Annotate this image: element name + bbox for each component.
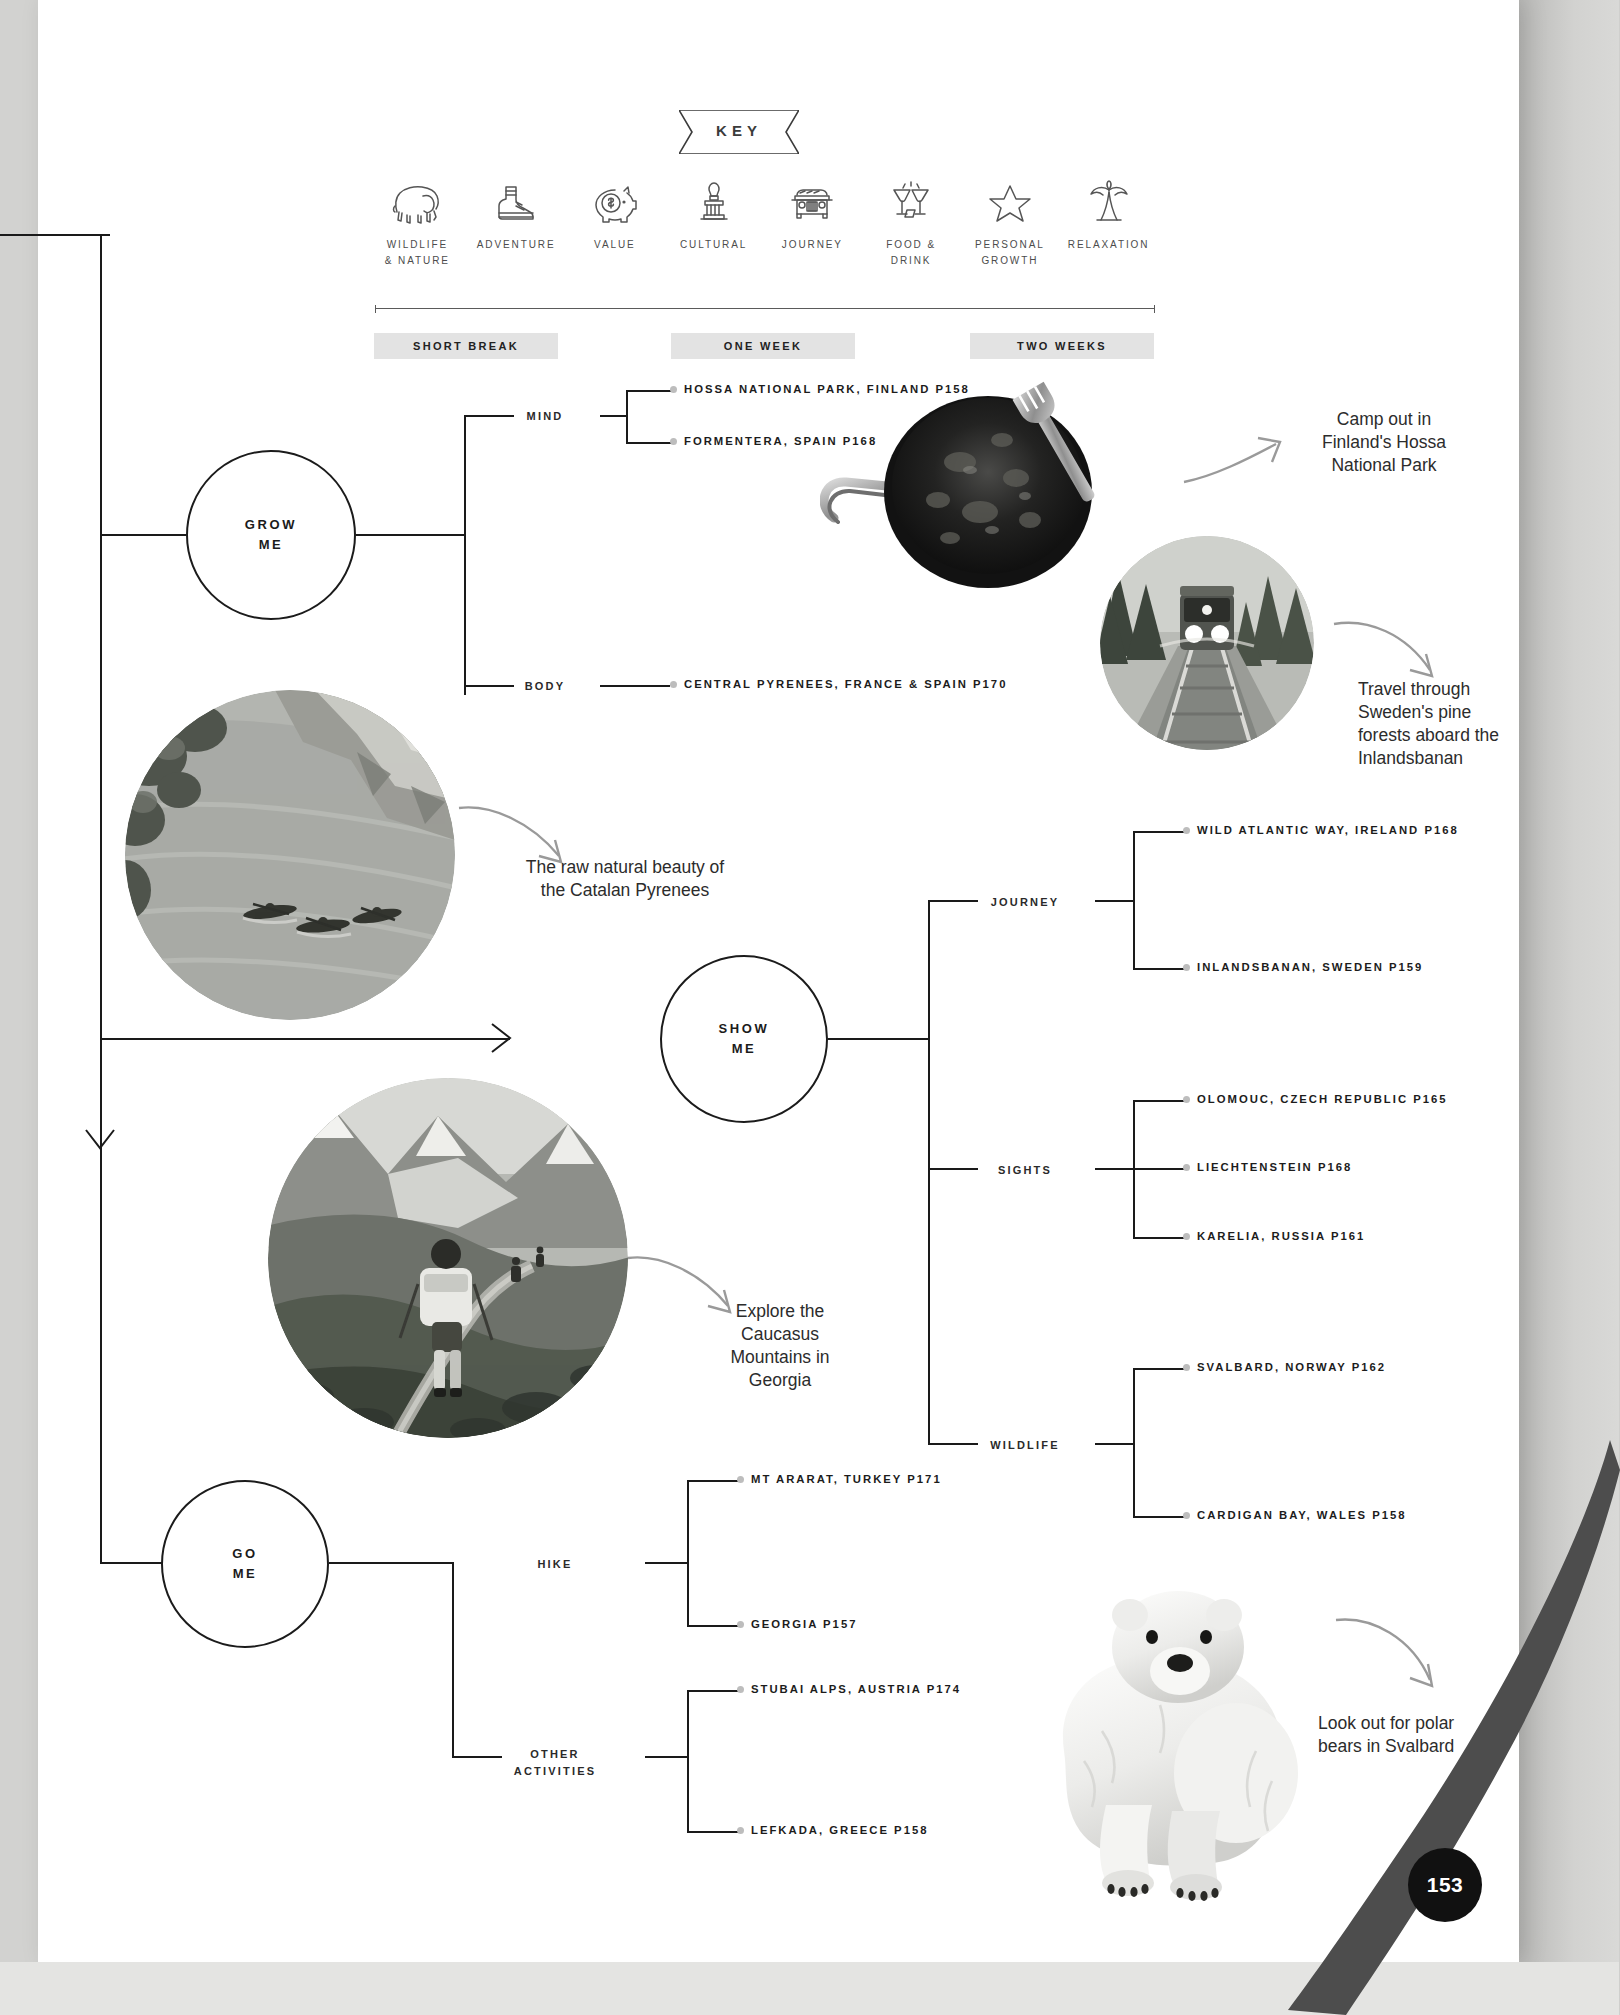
- key-legend: WILDLIFE & NATURE ADVENTURE VALUE: [368, 178, 1158, 269]
- key-title: KEY: [679, 122, 799, 139]
- destination-label: LEFKADA, GREECE P158: [751, 1824, 928, 1836]
- hike-stem: [645, 1562, 689, 1564]
- grow-split-vertical: [464, 415, 466, 695]
- photo-camp-pan: [820, 370, 1140, 620]
- journey-leaf-line-1: [1133, 831, 1185, 833]
- mind-leaf-line-2: [626, 442, 672, 444]
- destination-karelia[interactable]: KARELIA, RUSSIA P161: [1183, 1230, 1365, 1242]
- destination-lefkada[interactable]: LEFKADA, GREECE P158: [737, 1824, 928, 1836]
- trunk-to-show: [100, 1038, 510, 1040]
- caption-hossa: Camp out in Finland's Hossa National Par…: [1278, 408, 1490, 477]
- key-item-label: PERSONAL GROWTH: [961, 237, 1060, 269]
- duration-chip-short-break: SHORT BREAK: [374, 333, 558, 359]
- mind-split-vertical: [626, 390, 628, 444]
- destination-label: LIECHTENSTEIN P168: [1197, 1161, 1352, 1173]
- caption-catalan-pyrenees: The raw natural beauty of the Catalan Py…: [500, 856, 750, 902]
- other-stem: [645, 1756, 689, 1758]
- sights-leaf-line-1: [1133, 1100, 1185, 1102]
- grow-stem: [356, 534, 466, 536]
- destination-bullet-icon: [1183, 964, 1190, 971]
- arrow-to-train-caption-icon: [1330, 612, 1442, 686]
- trunk-to-grow: [100, 534, 186, 536]
- key-item-food-drink: FOOD & DRINK: [862, 178, 961, 269]
- caption-inlandsbanan: Travel through Sweden's pine forests abo…: [1358, 678, 1558, 770]
- key-item-relaxation: RELAXATION: [1059, 178, 1158, 253]
- duration-chip-one-week: ONE WEEK: [671, 333, 855, 359]
- show-stem: [828, 1038, 930, 1040]
- hub-grow-me[interactable]: GROW ME: [186, 450, 356, 620]
- star-icon: [961, 178, 1060, 224]
- destination-liechtenstein[interactable]: LIECHTENSTEIN P168: [1183, 1161, 1352, 1173]
- destination-mt-ararat[interactable]: MT ARARAT, TURKEY P171: [737, 1473, 942, 1485]
- destination-label: SVALBARD, NORWAY P162: [1197, 1361, 1386, 1373]
- monument-icon: [664, 178, 763, 224]
- branch-label-journey: JOURNEY: [960, 894, 1090, 911]
- destination-label: KARELIA, RUSSIA P161: [1197, 1230, 1365, 1242]
- trunk-arrow-down-icon: [84, 1128, 116, 1154]
- destination-svalbard[interactable]: SVALBARD, NORWAY P162: [1183, 1361, 1386, 1373]
- destination-label: INLANDSBANAN, SWEDEN P159: [1197, 961, 1423, 973]
- hub-show-me[interactable]: SHOW ME: [660, 955, 828, 1123]
- branch-label-body: BODY: [500, 678, 590, 695]
- wildlife-leaf-line-1: [1133, 1368, 1185, 1370]
- destination-wild-atlantic-way[interactable]: WILD ATLANTIC WAY, IRELAND P168: [1183, 824, 1459, 836]
- destination-bullet-icon: [1183, 1096, 1190, 1103]
- duration-scale-rule: [375, 305, 1155, 312]
- bleed-rule-top: [0, 234, 110, 236]
- journey-split-vertical: [1133, 831, 1135, 970]
- destination-georgia[interactable]: GEORGIA P157: [737, 1618, 857, 1630]
- branch-label-wildlife: WILDLIFE: [960, 1437, 1090, 1454]
- key-item-value: VALUE: [566, 178, 665, 253]
- trunk-vertical: [100, 234, 102, 1564]
- destination-bullet-icon: [737, 1476, 744, 1483]
- branch-label-sights: SIGHTS: [960, 1162, 1090, 1179]
- mind-stem: [600, 415, 628, 417]
- destination-bullet-icon: [670, 681, 677, 688]
- jeep-icon: [763, 178, 862, 224]
- destination-olomouc[interactable]: OLOMOUC, CZECH REPUBLIC P165: [1183, 1093, 1448, 1105]
- destination-bullet-icon: [1183, 1164, 1190, 1171]
- trunk-arrow-right-icon: [490, 1022, 516, 1054]
- hub-go-me-label: GO ME: [232, 1544, 257, 1584]
- destination-bullet-icon: [1183, 1512, 1190, 1519]
- destination-label: STUBAI ALPS, AUSTRIA P174: [751, 1683, 961, 1695]
- go-branch-other: [452, 1756, 502, 1758]
- destination-label: OLOMOUC, CZECH REPUBLIC P165: [1197, 1093, 1448, 1105]
- destination-bullet-icon: [737, 1621, 744, 1628]
- destination-label: CENTRAL PYRENEES, FRANCE & SPAIN P170: [684, 678, 1007, 690]
- hike-split-vertical: [687, 1480, 689, 1627]
- destination-bullet-icon: [737, 1686, 744, 1693]
- other-leaf-line-2: [687, 1831, 739, 1833]
- palm-tree-icon: [1059, 178, 1158, 224]
- duration-chip-two-weeks: TWO WEEKS: [970, 333, 1154, 359]
- destination-bullet-icon: [1183, 1364, 1190, 1371]
- elephant-icon: [368, 178, 467, 224]
- wildlife-leaf-line-2: [1133, 1516, 1185, 1518]
- boot-icon: [467, 178, 566, 224]
- hike-leaf-line-2: [687, 1625, 739, 1627]
- destination-stubai-alps[interactable]: STUBAI ALPS, AUSTRIA P174: [737, 1683, 961, 1695]
- wildlife-split-vertical: [1133, 1368, 1135, 1518]
- mind-leaf-line-1: [626, 390, 672, 392]
- destination-bullet-icon: [1183, 827, 1190, 834]
- trunk-to-go: [100, 1562, 170, 1564]
- destination-central-pyrenees[interactable]: CENTRAL PYRENEES, FRANCE & SPAIN P170: [670, 678, 1007, 690]
- key-item-wildlife: WILDLIFE & NATURE: [368, 178, 467, 269]
- destination-inlandsbanan[interactable]: INLANDSBANAN, SWEDEN P159: [1183, 961, 1423, 973]
- sights-leaf-line-2: [1133, 1168, 1185, 1170]
- destination-bullet-icon: [670, 438, 677, 445]
- piggy-bank-icon: [566, 178, 665, 224]
- sights-leaf-line-3: [1133, 1237, 1185, 1239]
- go-split-vertical: [452, 1562, 454, 1758]
- cheers-icon: [862, 178, 961, 224]
- sights-stem: [1095, 1168, 1135, 1170]
- other-leaf-line-1: [687, 1690, 739, 1692]
- wildlife-stem: [1095, 1443, 1135, 1445]
- photo-catalan-pyrenees: [125, 690, 455, 1020]
- key-item-label: JOURNEY: [763, 237, 862, 253]
- hub-go-me[interactable]: GO ME: [161, 1480, 329, 1648]
- page-number-badge: 153: [1408, 1848, 1482, 1922]
- key-item-label: ADVENTURE: [467, 237, 566, 253]
- key-item-label: VALUE: [566, 237, 665, 253]
- destination-label: MT ARARAT, TURKEY P171: [751, 1473, 942, 1485]
